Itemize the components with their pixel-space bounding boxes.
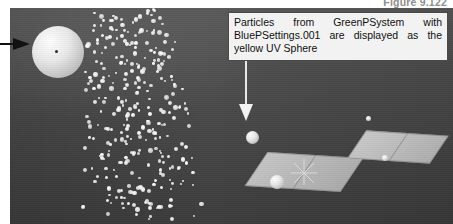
particle [137, 131, 141, 135]
particle [146, 120, 149, 123]
particle [106, 212, 110, 216]
particle [141, 125, 146, 130]
particle [140, 69, 144, 73]
particle [83, 146, 87, 150]
particle [147, 163, 151, 167]
particle [149, 215, 152, 218]
particle [97, 84, 102, 89]
particle [125, 143, 128, 146]
uv-sphere-emitter-object[interactable] [32, 26, 84, 78]
particle [173, 84, 177, 88]
particle [125, 127, 129, 131]
particle [100, 156, 104, 160]
particle [154, 147, 157, 150]
sphere-on-left-plane[interactable] [270, 175, 284, 189]
particle [101, 52, 104, 55]
particle [105, 36, 109, 40]
particle [146, 121, 150, 125]
particle [120, 189, 123, 192]
particle [171, 92, 175, 96]
yellow-uv-sphere-instance[interactable] [246, 131, 259, 144]
particle [161, 173, 165, 177]
callout-leader-line [245, 60, 247, 108]
small-sphere-on-right-plane[interactable] [382, 155, 388, 161]
particle [153, 59, 156, 62]
particle [163, 60, 165, 62]
particle [106, 199, 109, 202]
particle [115, 56, 119, 60]
particle [167, 155, 171, 159]
particle [138, 149, 141, 152]
particle [119, 61, 123, 65]
particle [109, 143, 112, 146]
particle [93, 50, 97, 54]
particle [127, 184, 131, 188]
particle [96, 175, 99, 178]
particle [199, 202, 203, 206]
particle [145, 41, 149, 45]
particle [134, 34, 137, 37]
particle [120, 131, 123, 134]
particle [167, 55, 171, 59]
particle [102, 67, 105, 70]
particle [157, 58, 160, 61]
small-sphere-upper[interactable] [366, 116, 371, 121]
particle [81, 205, 85, 209]
particle [169, 167, 172, 170]
particle [137, 152, 141, 156]
particle [141, 187, 146, 192]
particle [131, 113, 135, 117]
particle [133, 51, 137, 55]
particle [180, 142, 184, 146]
particle [104, 46, 107, 49]
particle [171, 165, 175, 169]
particle [158, 16, 163, 21]
particle [125, 114, 129, 118]
particle [115, 29, 118, 32]
particle [148, 206, 152, 210]
particle [132, 191, 137, 196]
particle [93, 72, 98, 77]
particle [142, 67, 146, 71]
particle [121, 23, 125, 27]
3d-cursor-icon[interactable] [290, 158, 318, 186]
particle [100, 110, 102, 112]
particle [113, 169, 115, 171]
particle [126, 112, 131, 117]
particle [92, 29, 95, 32]
particle [114, 138, 117, 141]
particle [174, 41, 176, 43]
particle [116, 37, 119, 40]
particle [138, 109, 140, 111]
particle [154, 132, 157, 135]
particle [137, 86, 141, 90]
particle [134, 17, 138, 21]
particle [112, 15, 115, 18]
particle [147, 120, 150, 123]
particle [108, 75, 110, 77]
particle [160, 186, 163, 189]
particle [102, 100, 106, 104]
particle [132, 152, 136, 156]
plane-right-object[interactable] [347, 130, 448, 163]
particle [163, 52, 167, 56]
particle [93, 12, 96, 15]
particle [161, 155, 164, 158]
particle [134, 81, 138, 85]
particle [160, 52, 164, 56]
particle [193, 215, 195, 217]
particle [125, 83, 129, 87]
particle [146, 12, 149, 15]
particle [157, 122, 161, 126]
particle [132, 21, 134, 23]
particle [120, 23, 124, 27]
particle [120, 100, 124, 104]
particle [86, 42, 91, 47]
particle [156, 70, 159, 73]
particle [128, 190, 133, 195]
particle [138, 177, 141, 180]
particle [147, 129, 152, 134]
particle [152, 183, 156, 187]
particle [127, 202, 130, 205]
particle [88, 76, 92, 80]
